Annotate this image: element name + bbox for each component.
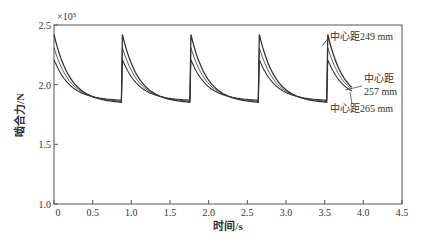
axes: 00.51.01.52.02.53.03.54.04.51.01.52.02.5… (13, 11, 408, 232)
y-tick-label: 1.0 (39, 199, 52, 210)
series-annotation: 中心距 (364, 72, 394, 84)
x-tick-label: 1.5 (164, 207, 177, 218)
series-annotation: 中心距249 mm (330, 30, 393, 42)
y-axis-label: 啮合力/N (13, 93, 26, 137)
series-line (54, 35, 352, 103)
x-tick-label: 4.0 (357, 207, 370, 218)
series-annotation: 中心距265 mm (330, 102, 393, 114)
line-chart: 00.51.01.52.02.53.03.54.04.51.01.52.02.5… (0, 0, 422, 245)
x-tick-label: 3.5 (318, 207, 331, 218)
x-tick-label: 2.0 (202, 207, 215, 218)
series-line (54, 48, 352, 101)
y-tick-label: 1.5 (39, 139, 52, 150)
x-tick-label: 3.0 (280, 207, 293, 218)
x-tick-label: 1.0 (125, 207, 138, 218)
series-annotation: 257 mm (364, 86, 397, 97)
curves (54, 35, 352, 103)
x-tick-label: 0 (56, 207, 61, 218)
x-tick-label: 4.5 (396, 207, 409, 218)
y-tick-label: 2.5 (39, 20, 52, 31)
series-line (54, 60, 352, 101)
x-tick-label: 2.5 (241, 207, 254, 218)
y-multiplier: ×10⁵ (57, 11, 76, 22)
x-tick-label: 0.5 (86, 207, 99, 218)
y-tick-label: 2.0 (39, 80, 52, 91)
plot-frame (54, 25, 402, 204)
x-axis-label: 时间/s (213, 219, 243, 232)
